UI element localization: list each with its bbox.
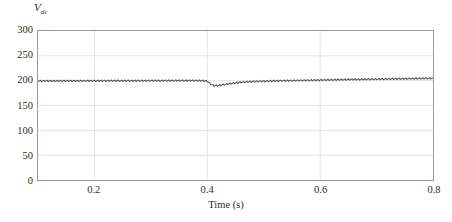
y-axis-title-subscript: dc [41, 8, 48, 16]
x-tick-label: 0.4 [187, 185, 227, 196]
x-tick-label: 0.2 [74, 185, 114, 196]
y-tick-label: 300 [1, 25, 33, 36]
vdc-trace [38, 78, 433, 87]
y-tick-label: 200 [1, 75, 33, 86]
x-axis-title: Time (s) [0, 200, 452, 211]
y-tick-label: 250 [1, 50, 33, 61]
x-tick-label: 0.8 [414, 185, 452, 196]
plot-area [37, 30, 434, 181]
data-series-vdc [38, 31, 433, 180]
y-axis-title: Vdc [34, 2, 48, 16]
y-tick-label: 100 [1, 126, 33, 137]
y-tick-label: 50 [1, 151, 33, 162]
x-axis-tick-labels: 0.20.40.60.8 [0, 185, 452, 199]
x-tick-label: 0.6 [301, 185, 341, 196]
chart-figure: Vdc 050100150200250300 0.20.40.60.8 Time… [0, 0, 452, 222]
y-tick-label: 150 [1, 101, 33, 112]
y-axis-title-main: V [34, 1, 41, 13]
